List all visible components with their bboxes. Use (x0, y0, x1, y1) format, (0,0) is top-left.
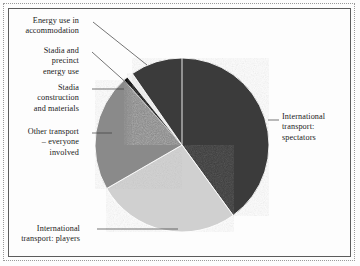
slice-label-line: spectators (282, 133, 325, 143)
slice-label-line: Stadia and (0, 46, 79, 56)
slice-label-line: Stadia (0, 83, 79, 93)
slice-label-line: International (0, 224, 80, 234)
slice-label-line: Other transport (0, 127, 79, 137)
slice-label-line: transport: (282, 122, 325, 132)
slice-label-line: involved (0, 148, 79, 158)
slice-label-line: construction (0, 93, 79, 103)
pie-slices (95, 58, 269, 232)
slice-label: Internationaltransport:spectators (282, 112, 325, 143)
slice-label: Energy use inaccommodation (0, 16, 79, 37)
slice-label-line: Energy use in (0, 16, 79, 26)
slice-label-line: transport: players (0, 234, 80, 244)
slice-label: Stadia andprecinctenergy use (0, 46, 79, 77)
slice-label-line: – everyone (0, 137, 79, 147)
slice-label-line: International (282, 112, 325, 122)
slice-label: Internationaltransport: players (0, 224, 80, 245)
slice-label-line: precinct (0, 56, 79, 66)
slice-label-line: and materials (0, 104, 79, 114)
slice-label-line: accommodation (0, 26, 79, 36)
slice-label-line: energy use (0, 67, 79, 77)
slice-label: Stadiaconstructionand materials (0, 83, 79, 114)
slice-label: Other transport– everyoneinvolved (0, 127, 79, 158)
figure-canvas: Internationaltransport:spectatorsInterna… (0, 0, 360, 266)
leader-line (93, 22, 147, 65)
leader-line (92, 52, 130, 86)
